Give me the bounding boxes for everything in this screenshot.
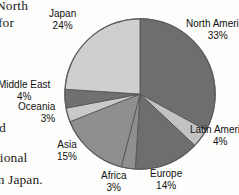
- slice-label-africa: Africa 3%: [101, 170, 127, 193]
- body-text-fragment-for: for: [0, 15, 14, 30]
- slice-label-oceania-pct: 3%: [18, 113, 55, 125]
- slice-label-europe-pct: 14%: [150, 180, 182, 192]
- slice-label-asia-pct: 15%: [57, 151, 77, 163]
- slice-label-middle-east-name: Middle East: [0, 79, 50, 90]
- body-text-fragment-gional: gional: [0, 150, 27, 165]
- slice-label-middle-east: Middle East 4%: [0, 79, 50, 102]
- slice-label-middle-east-pct: 4%: [0, 91, 50, 103]
- slice-label-europe: Europe 14%: [150, 168, 182, 191]
- slice-label-north-america: North America 33%: [186, 18, 239, 41]
- slice-label-asia: Asia 15%: [57, 139, 77, 162]
- slice-label-japan-name: Japan: [49, 8, 76, 19]
- body-text-fragment-d: d: [0, 120, 6, 135]
- slice-label-latin-america-pct: 4%: [190, 136, 239, 148]
- slice-label-oceania: Oceania 3%: [18, 101, 55, 124]
- pie-chart-figure: North for d gional m Japan. North Americ…: [0, 0, 239, 195]
- slice-label-africa-pct: 3%: [101, 182, 127, 194]
- body-text-fragment-japan: m Japan.: [0, 172, 43, 187]
- slice-label-japan: Japan 24%: [49, 8, 76, 31]
- slice-label-japan-pct: 24%: [49, 20, 76, 32]
- slice-label-latin-america: Latin America 4%: [190, 124, 239, 147]
- slice-label-europe-name: Europe: [150, 168, 182, 179]
- slice-label-oceania-name: Oceania: [18, 101, 55, 112]
- slice-label-asia-name: Asia: [57, 139, 76, 150]
- slice-label-africa-name: Africa: [101, 170, 127, 181]
- slice-label-north-america-name: North America: [186, 18, 239, 29]
- slice-label-latin-america-name: Latin America: [190, 124, 239, 135]
- body-text-fragment-north: North: [0, 0, 28, 13]
- slice-label-north-america-pct: 33%: [186, 30, 239, 42]
